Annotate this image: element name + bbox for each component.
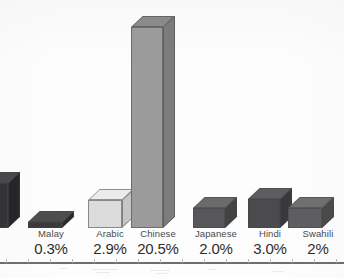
bar-face-side: [8, 172, 20, 228]
figure-canvas: Malay 0.3% Arabic 2.9% Chinese 20.5% Jap…: [0, 0, 344, 278]
bar-face-front: [193, 208, 225, 228]
bleed-mark: [150, 270, 170, 271]
axis-tick: [314, 259, 315, 263]
bleed-mark: [208, 269, 217, 270]
bar-category-label: Swahili: [292, 228, 344, 240]
bar-3d-box: [288, 197, 322, 228]
bar-3d-box: [0, 172, 8, 228]
bar-value-label: 2.0%: [185, 240, 247, 257]
bar-category-label: Japanese: [185, 228, 247, 240]
axis-tick: [160, 259, 161, 263]
axis-tick: [138, 259, 139, 263]
axis-tick: [6, 259, 7, 263]
bleed-mark: [96, 272, 110, 273]
bleed-mark: [60, 268, 67, 269]
axis-tick: [248, 259, 249, 263]
axis-tick: [94, 259, 95, 263]
axis-label-chinese: Chinese 20.5%: [125, 228, 191, 257]
bar-face-front: [131, 27, 163, 228]
bar-value-label: 20.5%: [125, 240, 191, 257]
bar-face-front: [88, 200, 122, 228]
bar-category-label: Chinese: [125, 228, 191, 240]
axis-tick: [116, 259, 117, 263]
bar-value-label: 2%: [292, 240, 344, 257]
bar-3d-box: [248, 188, 280, 228]
bar-face-side: [163, 16, 175, 228]
bar-face-front: [288, 208, 322, 228]
bar-category-label: Hindi: [244, 228, 296, 240]
bleed-mark: [272, 271, 284, 272]
axis-tick: [182, 259, 183, 263]
axis-tick: [226, 259, 227, 263]
axis-label-swahili: Swahili 2%: [292, 228, 344, 257]
axis-tick: [50, 259, 51, 263]
bar-value-label: 0.3%: [23, 240, 79, 257]
page-bleed-through: [0, 265, 344, 278]
axis-tick: [72, 259, 73, 263]
bar-face-front: [248, 199, 280, 228]
axis-tick: [270, 259, 271, 263]
axis-tick: [204, 259, 205, 263]
bar-3d-box: [28, 211, 62, 228]
bar-3d-box: [193, 197, 225, 228]
bar-face-front: [0, 183, 8, 228]
bleed-mark: [156, 273, 167, 274]
bar-3d-box: [131, 16, 163, 228]
axis-label-hindi: Hindi 3.0%: [244, 228, 296, 257]
axis-label-malay: Malay 0.3%: [23, 228, 79, 257]
axis-tick: [336, 259, 337, 263]
axis-label-japanese: Japanese 2.0%: [185, 228, 247, 257]
bleed-mark: [92, 269, 118, 270]
axis-tick: [292, 259, 293, 263]
bar-category-label: Malay: [23, 228, 79, 240]
bar-3d-box: [88, 189, 122, 228]
axis-tick: [28, 259, 29, 263]
bar-chart-plot-area: [0, 0, 344, 228]
bar-value-label: 3.0%: [244, 240, 296, 257]
